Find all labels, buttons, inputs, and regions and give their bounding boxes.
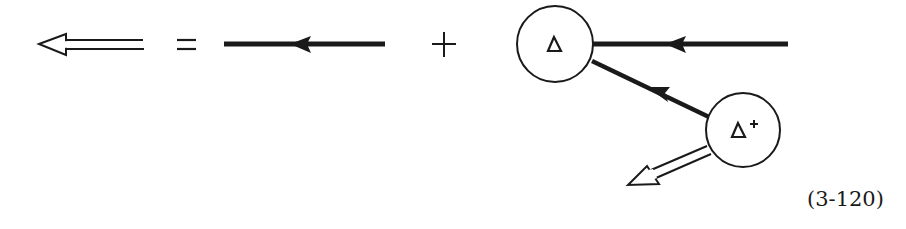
vertex-delta-plus [706,93,780,167]
diagram-canvas: (3-120) [0,0,906,229]
plus-sign [432,32,456,57]
lhs-double-arrow [39,34,144,55]
connecting-line [592,61,709,117]
incoming-line-right [593,36,788,53]
bare-propagator-line [224,36,385,53]
vertex-delta [517,6,593,82]
outgoing-double-arrow [628,146,711,185]
equals-sign [177,40,196,49]
equation-number: (3-120) [807,187,884,211]
